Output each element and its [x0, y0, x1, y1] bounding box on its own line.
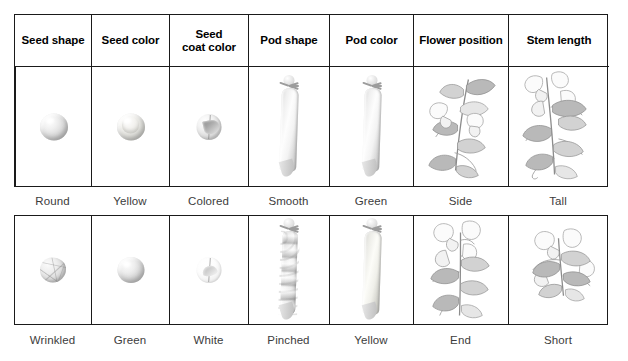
column-header-pod-shape: Pod shape — [248, 15, 329, 67]
yellow-pod-illustration — [329, 216, 413, 324]
colored-seed-coat-illustration — [169, 67, 248, 186]
column-header-label: Seed coat color — [182, 28, 236, 54]
caption-smooth: Smooth — [248, 187, 329, 215]
green-seed-icon — [117, 257, 144, 283]
yellow-seed-icon — [117, 113, 145, 140]
end-flower-position-plant-illustration — [413, 216, 508, 324]
caption-green: Green — [329, 187, 413, 215]
side-flower-position-plant-illustration — [413, 67, 508, 186]
column-header-label: Pod shape — [260, 34, 317, 47]
wrinkled-seed-illustration — [15, 216, 91, 324]
column-header-flower-position: Flower position — [413, 15, 508, 67]
short-stem-plant-illustration — [508, 216, 609, 324]
caption-yellow-pod: Yellow — [329, 325, 413, 355]
round-seed-illustration — [15, 67, 91, 186]
round-seed-icon — [40, 113, 68, 140]
caption-pinched: Pinched — [248, 325, 329, 355]
caption-tall: Tall — [508, 187, 608, 215]
yellow-seed-illustration — [91, 67, 169, 186]
caption-white: White — [169, 325, 248, 355]
green-pod-icon — [360, 79, 384, 175]
smooth-pod-illustration — [248, 67, 329, 186]
column-header-label: Seed shape — [22, 34, 85, 47]
caption-side: Side — [413, 187, 508, 215]
pinched-pod-icon — [277, 222, 301, 318]
caption-short: Short — [508, 325, 608, 355]
green-seed-illustration — [91, 216, 169, 324]
pinched-pod-illustration — [248, 216, 329, 324]
column-header-label: Pod color — [345, 34, 397, 47]
caption-round: Round — [14, 187, 91, 215]
pea-plant-traits-chart: Seed shape Seed color Seed coat color Po… — [14, 14, 608, 355]
yellow-pod-icon — [360, 222, 384, 318]
column-header-label: Seed color — [102, 34, 160, 47]
white-seed-coat-icon — [197, 257, 222, 283]
green-pod-illustration — [329, 67, 413, 186]
colored-seed-coat-icon — [197, 114, 222, 140]
tall-stem-plant-illustration — [508, 67, 609, 186]
dominant-traits-captions: Round Yellow Colored Smooth Green Side T… — [14, 187, 608, 215]
white-seed-coat-illustration — [169, 216, 248, 324]
caption-colored: Colored — [169, 187, 248, 215]
smooth-pod-icon — [277, 79, 301, 175]
caption-end: End — [413, 325, 508, 355]
side-flower-plant-icon — [414, 67, 508, 186]
column-header-pod-color: Pod color — [329, 15, 413, 67]
column-header-label: Stem length — [527, 34, 592, 47]
wrinkled-seed-icon — [40, 258, 66, 283]
column-header-seed-color: Seed color — [91, 15, 169, 67]
column-header-seed-coat-color: Seed coat color — [169, 15, 248, 67]
short-stem-plant-icon — [509, 216, 609, 324]
tall-stem-plant-icon — [509, 67, 609, 186]
caption-wrinkled: Wrinkled — [14, 325, 91, 355]
column-header-label: Flower position — [419, 34, 502, 47]
caption-green-seed: Green — [91, 325, 169, 355]
end-flower-plant-icon — [414, 216, 508, 324]
recessive-traits-captions: Wrinkled Green White Pinched Yellow End … — [14, 325, 608, 355]
column-header-seed-shape: Seed shape — [15, 15, 91, 67]
column-header-stem-length: Stem length — [508, 15, 609, 67]
traits-table-row-1: Seed shape Seed color Seed coat color Po… — [14, 14, 608, 187]
traits-table-row-2 — [14, 215, 608, 325]
caption-yellow: Yellow — [91, 187, 169, 215]
